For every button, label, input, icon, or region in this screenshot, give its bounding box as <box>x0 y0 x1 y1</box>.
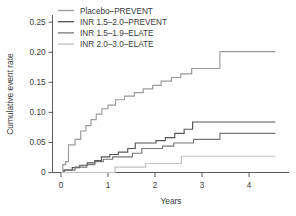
series-line-2 <box>61 133 275 172</box>
y-axis-tick-labels: 00.050.100.150.200.25 <box>30 18 46 177</box>
y-tick-label: 0.05 <box>30 138 46 147</box>
chart-legend: Placebo–PREVENTINR 1.5–2.0–PREVENTINR 1.… <box>58 7 167 50</box>
legend-label-0: Placebo–PREVENT <box>80 7 153 16</box>
y-tick-label: 0.20 <box>30 48 46 57</box>
y-tick-label: 0.25 <box>30 18 46 27</box>
legend-label-2: INR 1.5–1.9–ELATE <box>80 29 154 38</box>
x-axis-ticks <box>61 173 249 178</box>
y-tick-label: 0.15 <box>30 78 46 87</box>
legend-label-3: INR 2.0–3.0–ELATE <box>80 40 154 49</box>
chart-figure: 00.050.100.150.200.25 01234 Placebo–PREV… <box>0 0 296 216</box>
x-axis-tick-labels: 01234 <box>59 181 252 190</box>
y-axis-ticks <box>49 22 53 172</box>
y-tick-label: 0 <box>41 168 46 177</box>
x-tick-label: 2 <box>153 181 158 190</box>
y-axis-title: Cumulative event rate <box>5 53 15 135</box>
y-tick-label: 0.10 <box>30 108 46 117</box>
x-tick-label: 0 <box>59 181 64 190</box>
cumulative-event-rate-chart: 00.050.100.150.200.25 01234 Placebo–PREV… <box>0 0 296 216</box>
legend-label-1: INR 1.5–2.0–PREVENT <box>80 18 167 27</box>
x-axis-title: Years <box>160 196 181 206</box>
x-tick-label: 1 <box>106 181 111 190</box>
series-lines <box>61 52 275 173</box>
x-tick-label: 4 <box>247 181 252 190</box>
x-tick-label: 3 <box>200 181 205 190</box>
series-line-0 <box>61 52 275 173</box>
